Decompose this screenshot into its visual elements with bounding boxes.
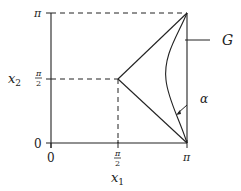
- y-tick-label-half-pi-den: 2: [36, 79, 41, 88]
- angle-label-alpha: α: [200, 92, 208, 106]
- x-tick-label-half-pi-num: π: [114, 149, 121, 158]
- curve-label-g: G: [222, 32, 233, 48]
- y-tick-label-pi: π: [33, 7, 42, 20]
- y-axis-label: x2: [8, 71, 21, 88]
- curve-g: [166, 13, 187, 143]
- lower-edge: [118, 79, 187, 143]
- x-tick-label-half-pi-den: 2: [115, 159, 120, 168]
- x-axis-label: x1: [111, 170, 124, 187]
- x-tick-label-pi: π: [182, 151, 191, 164]
- x-tick-label-zero: 0: [47, 151, 55, 165]
- y-tick-label-half-pi-num: π: [35, 69, 42, 78]
- upper-edge: [118, 13, 187, 79]
- diagram-canvas: G α π π 2 0 x2 0 π 2 π x1: [0, 0, 241, 191]
- y-tick-label-zero: 0: [34, 137, 42, 151]
